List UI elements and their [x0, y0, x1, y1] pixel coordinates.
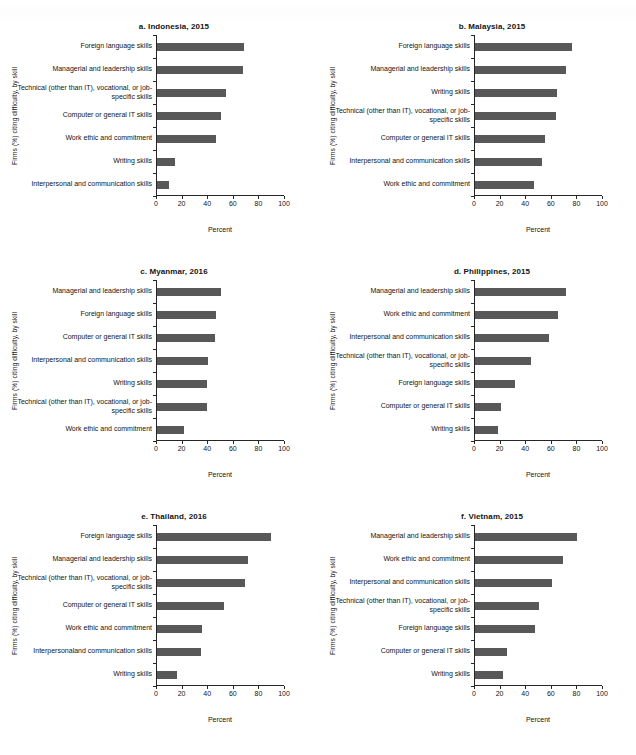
category-label: Writing skills: [14, 150, 156, 173]
x-axis-tick: [525, 196, 526, 199]
x-axis-tick: [233, 196, 234, 199]
bar-row: [157, 556, 248, 564]
category-label-text: Work ethic and commitment: [65, 624, 152, 633]
bar: [157, 158, 175, 166]
y-axis-tick: [471, 395, 474, 396]
category-label-text: Technical (other than IT), vocational, o…: [332, 107, 470, 124]
category-label: Interpersonal and communication skills: [14, 173, 156, 196]
bar: [157, 112, 221, 120]
y-axis-tick: [153, 663, 156, 664]
x-axis-tick: [182, 686, 183, 689]
bar: [157, 288, 221, 296]
y-axis-tick: [153, 280, 156, 281]
x-axis-tick: [500, 196, 501, 199]
category-label-text: Foreign language skills: [80, 42, 152, 51]
category-label-text: Foreign language skills: [80, 310, 152, 319]
y-axis-tick: [471, 35, 474, 36]
plot-area-a: [156, 35, 284, 196]
x-axis-tick: [551, 441, 552, 444]
bar: [475, 89, 557, 97]
bar: [475, 181, 534, 189]
y-axis-tick: [471, 617, 474, 618]
category-label-text: Technical (other than IT), vocational, o…: [14, 574, 152, 591]
category-label: Technical (other than IT), vocational, o…: [14, 571, 156, 594]
category-label-text: Interpersonal and communication skills: [349, 333, 470, 342]
x-axis-tick-label: 0: [154, 445, 158, 452]
x-axis-title-b: Percent: [474, 226, 602, 233]
x-axis-tick: [525, 441, 526, 444]
bar-row: [475, 648, 507, 656]
bar: [157, 181, 169, 189]
y-axis-title-d: Firms (%) citing difficulty, by skill: [318, 280, 332, 441]
bar-row: [157, 648, 201, 656]
bar-row: [475, 288, 566, 296]
plot-area-f: [474, 525, 602, 686]
y-axis-tick: [153, 640, 156, 641]
category-label-text: Interpersonal and communication skills: [31, 356, 152, 365]
y-axis-title-text: Firms (%) citing difficulty, by skill: [11, 67, 18, 165]
x-axis-tick: [258, 686, 259, 689]
bar-row: [157, 112, 221, 120]
bar-row: [157, 135, 216, 143]
bar: [475, 357, 531, 365]
x-axis-tick: [258, 196, 259, 199]
x-axis-tick: [602, 686, 603, 689]
panel-body-f: Firms (%) citing difficulty, by skillMan…: [318, 525, 636, 686]
y-axis-tick: [153, 525, 156, 526]
category-label-text: Computer or general IT skills: [63, 333, 152, 342]
y-axis-title-a: Firms (%) citing difficulty, by skill: [0, 35, 14, 196]
x-axis-tick: [207, 196, 208, 199]
category-label: Writing skills: [14, 663, 156, 686]
bar: [157, 556, 248, 564]
panel-title-e: e. Thailand, 2016: [0, 512, 318, 521]
category-label-text: Writing skills: [113, 670, 152, 679]
bar: [157, 311, 216, 319]
category-label: Foreign language skills: [332, 617, 474, 640]
panel-title-b: b. Malaysia, 2015: [318, 22, 636, 31]
bar: [475, 43, 572, 51]
x-axis-tick: [500, 441, 501, 444]
chart-panel-a: a. Indonesia, 2015Firms (%) citing diffi…: [0, 22, 318, 267]
category-label-text: Work ethic and commitment: [65, 134, 152, 143]
category-label: Managerial and leadership skills: [14, 548, 156, 571]
x-axis-tick-label: 80: [572, 445, 580, 452]
category-label-text: Computer or general IT skills: [381, 134, 470, 143]
x-axis-tick: [474, 196, 475, 199]
category-label-text: Technical (other than IT), vocational, o…: [332, 352, 470, 369]
panel-title-f: f. Vietnam, 2015: [318, 512, 636, 521]
y-axis-tick: [471, 525, 474, 526]
bar: [475, 426, 498, 434]
bar-row: [475, 380, 515, 388]
x-axis-tick: [474, 441, 475, 444]
x-axis-tick-label: 40: [203, 200, 211, 207]
x-axis-a: 020406080100: [156, 196, 318, 212]
panel-title-c: c. Myanmar, 2016: [0, 267, 318, 276]
category-label-text: Foreign language skills: [80, 532, 152, 541]
category-label-text: Foreign language skills: [398, 379, 470, 388]
x-axis-tick-label: 100: [278, 690, 290, 697]
x-axis-title-f: Percent: [474, 716, 602, 723]
category-label: Interpersonal and communication skills: [14, 349, 156, 372]
category-label: Computer or general IT skills: [332, 640, 474, 663]
bar-row: [475, 625, 535, 633]
bar-row: [475, 112, 556, 120]
figure-panel-grid: a. Indonesia, 2015Firms (%) citing diffi…: [0, 0, 636, 755]
y-axis-tick: [471, 372, 474, 373]
plot-area-b: [474, 35, 602, 196]
y-axis-tick: [471, 173, 474, 174]
category-label: Technical (other than IT), vocational, o…: [332, 594, 474, 617]
y-axis-tick: [471, 127, 474, 128]
x-axis-tick-label: 20: [178, 200, 186, 207]
category-label: Writing skills: [332, 663, 474, 686]
x-axis-tick-label: 0: [472, 690, 476, 697]
category-label: Work ethic and commitment: [332, 303, 474, 326]
y-axis-tick: [153, 150, 156, 151]
category-label: Foreign language skills: [14, 303, 156, 326]
plot-area-c: [156, 280, 284, 441]
y-axis-title-e: Firms (%) citing difficulty, by skill: [0, 525, 14, 686]
category-label-text: Computer or general IT skills: [63, 111, 152, 120]
category-label: Managerial and leadership skills: [332, 280, 474, 303]
category-label-text: Writing skills: [431, 670, 470, 679]
plot-area-d: [474, 280, 602, 441]
y-axis-tick: [153, 418, 156, 419]
